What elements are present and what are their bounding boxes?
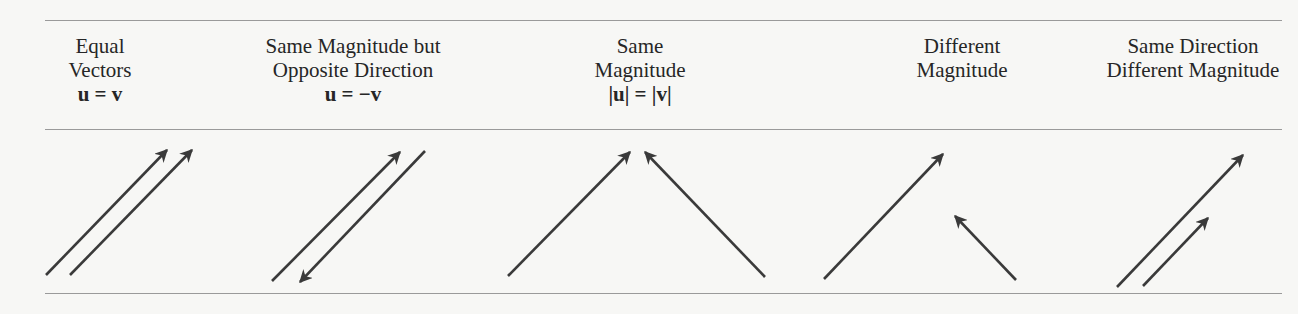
vector-arrow-equal	[46, 150, 167, 275]
vector-arrows	[46, 150, 1243, 287]
vector-arrow-different-magnitude	[824, 154, 943, 279]
vector-arrow-same-direction	[1143, 218, 1208, 286]
vector-arrow-equal	[70, 150, 192, 275]
vector-arrow-opposite	[272, 152, 400, 281]
vector-diagram	[0, 0, 1298, 314]
vector-arrow-same-direction	[1117, 155, 1243, 287]
vector-arrow-opposite	[300, 151, 425, 282]
vector-arrow-same-magnitude	[645, 152, 765, 277]
vector-arrow-same-magnitude	[508, 152, 630, 276]
vector-arrow-different-magnitude	[955, 216, 1016, 280]
